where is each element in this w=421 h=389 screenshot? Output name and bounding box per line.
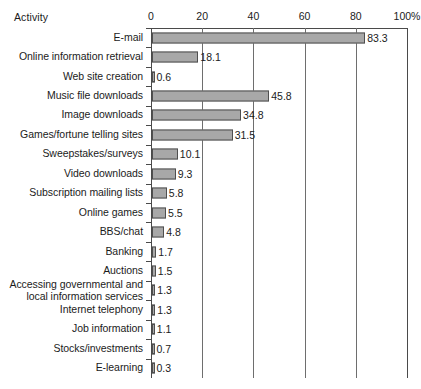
- bar-row: Web site creation0.6: [0, 67, 421, 86]
- bar: [152, 304, 155, 315]
- y-axis-tick: [146, 281, 151, 282]
- category-label: Accessing governmental and local informa…: [9, 279, 143, 302]
- x-axis-tick-label: 0: [148, 10, 154, 22]
- category-label: Online information retrieval: [19, 51, 143, 63]
- category-label: E-mail: [114, 32, 143, 44]
- bar-value-label: 31.5: [235, 129, 255, 141]
- bar-row: Internet telephony1.3: [0, 300, 421, 319]
- y-axis-tick: [146, 125, 151, 126]
- x-axis-tick-label: 60: [299, 10, 311, 22]
- bar-value-label: 45.8: [271, 90, 291, 102]
- bar-value-label: 4.8: [166, 226, 181, 238]
- category-label: Stocks/investments: [53, 343, 143, 355]
- y-axis-tick: [146, 184, 151, 185]
- bar: [152, 129, 233, 140]
- bar-value-label: 1.3: [157, 284, 172, 296]
- category-label: Online games: [79, 207, 143, 219]
- bar-value-label: 1.3: [157, 304, 172, 316]
- y-axis-tick: [146, 320, 151, 321]
- bar: [152, 32, 365, 43]
- category-label: Auctions: [103, 265, 143, 277]
- bar-value-label: 1.7: [158, 246, 173, 258]
- category-label: Internet telephony: [60, 304, 143, 316]
- y-axis-tick: [146, 222, 151, 223]
- bar-value-label: 0.3: [157, 362, 172, 374]
- category-label: Games/fortune telling sites: [20, 129, 143, 141]
- bar-row: E-learning0.3: [0, 359, 421, 378]
- bar: [152, 363, 155, 374]
- bar: [152, 227, 164, 238]
- y-axis-tick: [146, 47, 151, 48]
- bar-row: Image downloads34.8: [0, 106, 421, 125]
- bar-row: Subscription mailing lists5.8: [0, 184, 421, 203]
- bar-row: Job information1.1: [0, 320, 421, 339]
- y-axis-tick: [146, 359, 151, 360]
- bar: [152, 91, 269, 102]
- x-axis-tick-labels: 020406080100%: [0, 10, 421, 24]
- category-label: Music file downloads: [47, 90, 143, 102]
- bar: [152, 110, 241, 121]
- category-label: Banking: [105, 246, 143, 258]
- bar: [152, 266, 156, 277]
- y-axis-tick: [146, 86, 151, 87]
- bar-rows: E-mail83.3Online information retrieval18…: [0, 28, 421, 378]
- bar-value-label: 5.8: [169, 187, 184, 199]
- y-axis-tick: [146, 106, 151, 107]
- category-label: Job information: [72, 324, 143, 336]
- bar-value-label: 83.3: [367, 32, 387, 44]
- bar-row: Sweepstakes/surveys10.1: [0, 145, 421, 164]
- bar-value-label: 9.3: [178, 168, 193, 180]
- bar-row: BBS/chat4.8: [0, 222, 421, 241]
- y-axis-tick: [146, 145, 151, 146]
- bar-value-label: 1.5: [158, 265, 173, 277]
- bar-row: Banking1.7: [0, 242, 421, 261]
- category-label: Video downloads: [64, 168, 143, 180]
- category-label: Web site creation: [63, 71, 143, 83]
- y-axis-tick: [146, 339, 151, 340]
- y-axis-tick: [146, 242, 151, 243]
- bar-value-label: 18.1: [200, 51, 220, 63]
- y-axis-tick: [146, 203, 151, 204]
- x-axis-tick-label: 20: [196, 10, 208, 22]
- bar: [152, 246, 156, 257]
- bar-row: Music file downloads45.8: [0, 86, 421, 105]
- bar: [152, 52, 198, 63]
- bar: [152, 71, 155, 82]
- x-axis-tick-label: 100%: [394, 10, 421, 22]
- bar-value-label: 10.1: [180, 148, 200, 160]
- x-axis-tick-label: 40: [248, 10, 260, 22]
- bar-row: Accessing governmental and local informa…: [0, 281, 421, 300]
- y-axis-tick: [146, 164, 151, 165]
- bar: [152, 149, 178, 160]
- bar-row: Online games5.5: [0, 203, 421, 222]
- bar-row: Games/fortune telling sites31.5: [0, 125, 421, 144]
- y-axis-tick: [146, 28, 151, 29]
- bar: [152, 207, 166, 218]
- bar-row: E-mail83.3: [0, 28, 421, 47]
- y-axis-tick: [146, 261, 151, 262]
- bar-row: Video downloads9.3: [0, 164, 421, 183]
- bar-value-label: 1.1: [157, 323, 172, 335]
- x-axis-tick-label: 80: [350, 10, 362, 22]
- bar: [152, 343, 155, 354]
- bar-value-label: 0.7: [157, 343, 172, 355]
- category-label: Sweepstakes/surveys: [42, 149, 143, 161]
- bar: [152, 168, 176, 179]
- bar-value-label: 0.6: [157, 71, 172, 83]
- category-label: E-learning: [96, 363, 143, 375]
- category-label: BBS/chat: [100, 226, 143, 238]
- category-label: Image downloads: [61, 110, 143, 122]
- y-axis-tick: [146, 300, 151, 301]
- category-label: Subscription mailing lists: [29, 188, 143, 200]
- bar-value-label: 34.8: [243, 109, 263, 121]
- chart-figure: Activity 020406080100% E-mail83.3Online …: [0, 0, 421, 389]
- bar: [152, 285, 155, 296]
- y-axis-tick: [146, 67, 151, 68]
- bar-row: Stocks/investments0.7: [0, 339, 421, 358]
- bar: [152, 188, 167, 199]
- bar-row: Online information retrieval18.1: [0, 47, 421, 66]
- bar: [152, 324, 155, 335]
- bar-value-label: 5.5: [168, 207, 183, 219]
